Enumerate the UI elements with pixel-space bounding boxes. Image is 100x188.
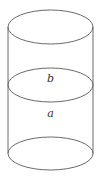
label-a: a <box>47 107 54 120</box>
label-b: b <box>47 72 54 85</box>
top-ellipse <box>8 10 93 44</box>
bottom-ellipse <box>8 137 93 170</box>
cylinder-diagram: b a <box>0 0 100 188</box>
